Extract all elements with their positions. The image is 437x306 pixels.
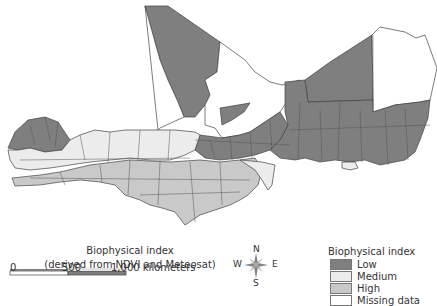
- legend-label-high: High: [357, 283, 380, 294]
- compass-north-label: N: [253, 244, 260, 254]
- legend-swatch-missing: [330, 295, 352, 306]
- map-title-line1: Biophysical index: [40, 244, 220, 258]
- compass-south-label: S: [253, 278, 259, 288]
- scale-label-0: 0: [10, 262, 16, 273]
- region-chad-south-medium: [342, 162, 358, 170]
- region-niger-north: [305, 35, 373, 102]
- legend-swatch-high: [330, 283, 352, 294]
- scale-label-500: 500: [62, 262, 81, 273]
- scale-label-1000: 1,000 kilometers: [111, 262, 196, 273]
- legend-title: Biophysical index: [328, 245, 420, 258]
- legend-label-medium: Medium: [357, 271, 397, 282]
- compass-east-label: E: [272, 259, 278, 269]
- legend-swatch-low: [330, 259, 352, 270]
- legend-item-missing: Missing data: [330, 294, 420, 306]
- compass-rose-icon: [244, 253, 268, 279]
- scale-labels: 0 500 1,000 kilometers: [8, 262, 208, 274]
- legend: Biophysical index Low Medium High Missin…: [330, 245, 420, 306]
- legend-item-high: High: [330, 282, 420, 294]
- legend-label-low: Low: [357, 259, 377, 270]
- legend-swatch-medium: [330, 271, 352, 282]
- compass-west-label: W: [233, 259, 242, 269]
- legend-item-low: Low: [330, 258, 420, 270]
- legend-label-missing: Missing data: [357, 295, 420, 306]
- region-senegal-north: [8, 117, 70, 152]
- region-chad-north: [372, 27, 437, 112]
- legend-item-medium: Medium: [330, 270, 420, 282]
